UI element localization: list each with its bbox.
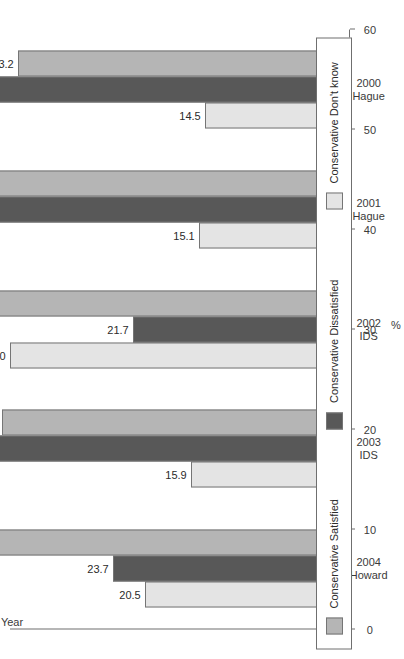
legend-item[interactable]: Conservative Satisfied — [326, 499, 343, 634]
bar-value-label: 34.0 — [0, 349, 6, 361]
category-label: 2001Hague — [352, 196, 384, 221]
category-label: 2003IDS — [356, 436, 380, 461]
bar-group: 14.552.333.22000Hague — [10, 33, 350, 145]
bar[interactable]: 44.3 — [0, 196, 350, 222]
bar-groups: 14.552.333.22000Hague15.144.340.62001Hag… — [10, 29, 350, 628]
chart-legend: Conservative SatisfiedConservative Dissa… — [316, 37, 352, 649]
bar[interactable]: 34.8 — [2, 409, 350, 435]
bar-value-label: 15.9 — [165, 468, 186, 480]
bar-value-label: 21.7 — [107, 323, 128, 335]
category-label-year: 2002 — [356, 316, 380, 328]
legend-item[interactable]: Conservative Dissatisfied — [326, 279, 343, 429]
bar-value-label: 33.2 — [0, 57, 14, 69]
category-label-leader: IDS — [356, 448, 380, 461]
bar[interactable]: 40.6 — [0, 170, 350, 196]
category-label-leader: IDS — [356, 329, 380, 342]
category-label: 2004Howard — [350, 555, 388, 580]
bar-group: 15.949.334.82003IDS — [10, 392, 350, 504]
bar[interactable]: 55.8 — [0, 529, 350, 555]
bar[interactable]: 52.3 — [0, 76, 350, 102]
legend-swatch — [326, 617, 343, 634]
legend-label: Conservative Dissatisfied — [328, 279, 340, 403]
category-label-year: 2003 — [356, 436, 380, 448]
bar[interactable]: 44.3 — [0, 290, 350, 316]
axis-tick-label: 60 — [364, 23, 377, 35]
legend-item[interactable]: Conservative Don't know — [326, 62, 343, 209]
bar-value-label: 14.5 — [179, 109, 200, 121]
axis-tick-label: 0 — [367, 623, 373, 635]
bar[interactable]: 34.0 — [10, 342, 350, 368]
axis-tick-label: 10 — [364, 523, 377, 535]
bar-value-label: 23.7 — [87, 562, 108, 574]
category-label-year: 2000 — [356, 76, 380, 88]
bar-value-label: 20.5 — [119, 588, 140, 600]
bar-group: 20.523.755.82004Howard — [10, 512, 350, 624]
axis-tick-label: 40 — [364, 223, 377, 235]
category-label-leader: Hague — [352, 209, 384, 222]
axis-tick-label: 20 — [364, 423, 377, 435]
axis-tick-label: 50 — [364, 123, 377, 135]
bar-value-label: 15.1 — [173, 229, 194, 241]
category-label-year: 2001 — [356, 196, 380, 208]
legend-label: Conservative Satisfied — [328, 499, 340, 608]
category-label-leader: Howard — [350, 568, 388, 581]
axis-tick — [350, 28, 355, 29]
category-label-leader: Hague — [352, 89, 384, 102]
category-label: 2000Hague — [352, 76, 384, 101]
legend-swatch — [326, 192, 343, 209]
bar[interactable]: 33.2 — [18, 50, 350, 76]
bar[interactable]: 49.3 — [0, 435, 350, 461]
plot-area: 0102030405060 % Year 14.552.333.22000Hag… — [10, 29, 350, 629]
category-label-year: 2004 — [356, 555, 380, 567]
bar[interactable]: 23.7 — [113, 555, 350, 581]
value-axis-title: % — [391, 318, 401, 330]
bar-group: 15.144.340.62001Hague — [10, 153, 350, 265]
legend-swatch — [326, 412, 343, 429]
plot-wrapper: 0102030405060 % Year 14.552.333.22000Hag… — [0, 0, 404, 659]
bar-group: 34.021.744.32002IDS — [10, 273, 350, 385]
category-label: 2002IDS — [356, 316, 380, 341]
chart-canvas: 0102030405060 % Year 14.552.333.22000Hag… — [0, 0, 404, 659]
legend-label: Conservative Don't know — [328, 62, 340, 183]
